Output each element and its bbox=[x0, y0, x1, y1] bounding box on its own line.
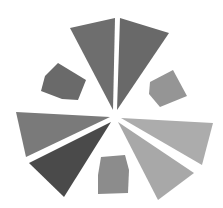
abstract-radial-artwork bbox=[0, 0, 223, 208]
bottom-polygon bbox=[98, 155, 129, 194]
